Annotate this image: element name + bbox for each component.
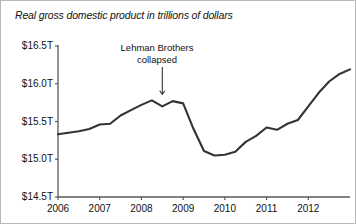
chart-tick-marks — [55, 46, 308, 200]
chart-series-lines — [58, 69, 350, 155]
line-chart-plot — [1, 1, 356, 224]
y-axis-tick-label: $15.0T — [9, 153, 53, 164]
x-axis-tick-label: 2010 — [205, 203, 245, 214]
x-axis-tick-label: 2012 — [288, 203, 328, 214]
lehman-collapse-annotation: Lehman Brothers collapsed — [101, 42, 213, 65]
y-axis-tick-label: $16.5T — [9, 40, 53, 51]
y-axis-tick-label: $15.5T — [9, 116, 53, 127]
annotation-line-2: collapsed — [101, 54, 213, 66]
annotation-pointer-line — [160, 67, 165, 94]
x-axis-tick-label: 2008 — [121, 203, 161, 214]
annotation-line-1: Lehman Brothers — [101, 42, 213, 54]
y-axis-tick-label: $16.0T — [9, 78, 53, 89]
chart-figure: Real gross domestic product in trillions… — [0, 0, 356, 224]
x-axis-tick-label: 2011 — [247, 203, 287, 214]
chart-axes — [58, 45, 350, 197]
x-axis-tick-label: 2006 — [38, 203, 78, 214]
x-axis-tick-label: 2009 — [163, 203, 203, 214]
x-axis-tick-label: 2007 — [80, 203, 120, 214]
y-axis-tick-label: $14.5T — [9, 191, 53, 202]
